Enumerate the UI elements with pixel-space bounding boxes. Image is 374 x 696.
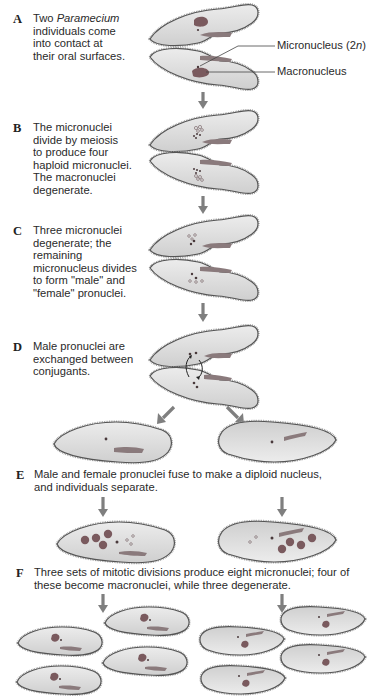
micronucleus-label-close: ) (362, 39, 366, 51)
step-a-line-2: individuals come (33, 25, 125, 38)
macronucleus-label: Macronucleus (277, 65, 347, 77)
step-b-line-6: degenerate. (33, 184, 132, 197)
step-c-line-2: degenerate; the (33, 237, 137, 250)
step-d-text: Male pronuclei are exchanged between con… (33, 340, 133, 378)
step-b-line-5: The macronuclei (33, 171, 132, 184)
paramecium-term: Paramecium (57, 12, 120, 24)
step-d-letter: D (13, 340, 22, 355)
step-c-line-5: to form "male" and (33, 274, 137, 287)
step-c-line-3: remaining (33, 249, 137, 262)
step-d-line-3: conjugants. (33, 365, 133, 378)
step-a-text: Two Paramecium individuals come into con… (33, 12, 125, 62)
step-f-line-2: these become macronuclei, while three de… (34, 579, 349, 592)
step-c-line-4: micronucleus divides (33, 262, 137, 275)
micronucleus-label-text: Micronucleus (2 (277, 39, 356, 51)
micronucleus-label: Micronucleus (2n) (277, 39, 366, 51)
step-a-line-1-prefix: Two (33, 12, 57, 24)
step-b-line-3: to produce four (33, 146, 132, 159)
step-a-line-1: Two Paramecium (33, 12, 125, 25)
step-a-line-4: their oral surfaces. (33, 50, 125, 63)
step-e-text: Male and female pronuclei fuse to make a… (34, 468, 322, 493)
pair-a (150, 5, 258, 46)
step-c-letter: C (13, 224, 22, 239)
step-b-line-4: haploid micronuclei. (33, 159, 132, 172)
step-e-line-1: Male and female pronuclei fuse to make a… (34, 468, 322, 481)
step-e-letter: E (16, 468, 24, 483)
step-e-line-2: and individuals separate. (34, 481, 322, 494)
step-a-letter: A (13, 12, 22, 27)
step-a-line-3: into contact at (33, 37, 125, 50)
step-c-line-1: Three micronuclei (33, 224, 137, 237)
step-b-letter: B (13, 121, 21, 136)
step-b-line-1: The micronuclei (33, 121, 132, 134)
step-f-line-1: Three sets of mitotic divisions produce … (34, 566, 349, 579)
pair-a-bottom (150, 49, 258, 90)
step-c-line-6: "female" pronuclei. (33, 287, 137, 300)
step-b-text: The micronuclei divide by meiosis to pro… (33, 121, 132, 197)
step-d-line-2: exchanged between (33, 353, 133, 366)
step-c-text: Three micronuclei degenerate; the remain… (33, 224, 137, 300)
step-b-line-2: divide by meiosis (33, 134, 132, 147)
step-d-line-1: Male pronuclei are (33, 340, 133, 353)
step-f-letter: F (16, 566, 24, 581)
step-f-text: Three sets of mitotic divisions produce … (34, 566, 349, 591)
